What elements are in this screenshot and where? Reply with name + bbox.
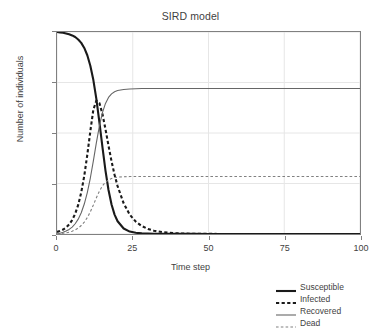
sird-model-chart: SIRD model Number of individuals 0250500… <box>0 0 381 333</box>
y-tick-mark <box>52 133 56 134</box>
legend-label: Infected <box>300 294 330 304</box>
legend-line-swatch <box>276 318 296 328</box>
legend-line-swatch <box>276 282 296 292</box>
y-tick-mark <box>52 31 56 32</box>
chart-title: SIRD model <box>0 10 381 22</box>
x-tick-mark <box>132 236 133 240</box>
legend-line-swatch <box>276 294 296 304</box>
legend-item-susceptible[interactable]: Susceptible <box>276 281 381 292</box>
x-tick-mark <box>56 236 57 240</box>
series-infected <box>57 101 360 234</box>
legend: SusceptibleInfectedRecoveredDead <box>276 281 381 329</box>
series-dead <box>57 176 360 234</box>
x-tick-label: 0 <box>36 243 76 253</box>
legend-item-dead[interactable]: Dead <box>276 317 381 328</box>
legend-label: Susceptible <box>300 282 344 292</box>
legend-item-infected[interactable]: Infected <box>276 293 381 304</box>
legend-item-recovered[interactable]: Recovered <box>276 305 381 316</box>
x-axis-label: Time step <box>0 262 381 272</box>
x-tick-mark <box>209 236 210 240</box>
legend-label: Recovered <box>300 306 341 316</box>
x-tick-label: 25 <box>112 243 152 253</box>
series-susceptible <box>57 32 360 234</box>
y-tick-mark <box>52 184 56 185</box>
y-tick-mark <box>52 82 56 83</box>
x-tick-mark <box>361 236 362 240</box>
legend-label: Dead <box>300 318 320 328</box>
x-tick-label: 75 <box>265 243 305 253</box>
legend-line-swatch <box>276 306 296 316</box>
x-tick-label: 100 <box>341 243 381 253</box>
plot-area <box>56 31 361 235</box>
x-tick-mark <box>285 236 286 240</box>
x-tick-label: 50 <box>189 243 229 253</box>
series-lines <box>57 32 360 234</box>
y-axis-label: Number of individuals <box>15 39 25 159</box>
